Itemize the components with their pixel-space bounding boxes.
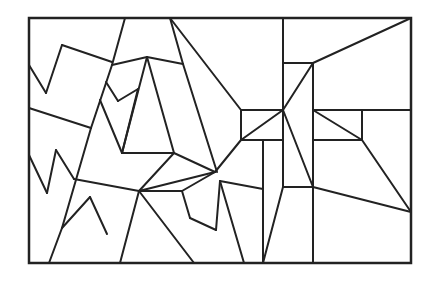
- edge-line: [283, 110, 313, 187]
- edge-line: [91, 65, 112, 128]
- edge-line: [174, 153, 215, 172]
- edge-line: [90, 197, 107, 234]
- edge-line: [147, 57, 183, 64]
- edge-line: [106, 82, 118, 101]
- edge-line: [74, 179, 139, 191]
- edge-line: [182, 191, 190, 218]
- edge-line: [241, 110, 283, 140]
- edge-line: [56, 150, 74, 179]
- edge-line: [47, 150, 56, 193]
- edge-line: [216, 181, 220, 230]
- polygon-edges: [29, 18, 411, 263]
- edge-line: [29, 108, 91, 128]
- edge-line: [100, 100, 122, 153]
- edge-line: [122, 57, 147, 153]
- edge-line: [190, 218, 216, 230]
- edge-line: [46, 45, 62, 93]
- edge-line: [283, 63, 313, 110]
- edge-line: [139, 153, 174, 191]
- edge-line: [112, 18, 125, 65]
- geometric-line-diagram: [0, 0, 433, 283]
- edge-line: [147, 57, 174, 153]
- edge-line: [220, 181, 263, 189]
- edge-line: [313, 110, 362, 140]
- edge-line: [120, 191, 139, 263]
- edge-line: [139, 172, 215, 191]
- edge-line: [112, 57, 147, 65]
- edge-line: [49, 228, 62, 263]
- edge-line: [29, 65, 46, 93]
- edge-line: [29, 155, 47, 193]
- edge-line: [183, 64, 217, 172]
- edge-line: [215, 140, 241, 172]
- edge-line: [313, 18, 411, 63]
- edge-line: [220, 181, 244, 263]
- edge-line: [263, 187, 283, 263]
- edge-line: [62, 45, 112, 62]
- edge-line: [182, 172, 215, 191]
